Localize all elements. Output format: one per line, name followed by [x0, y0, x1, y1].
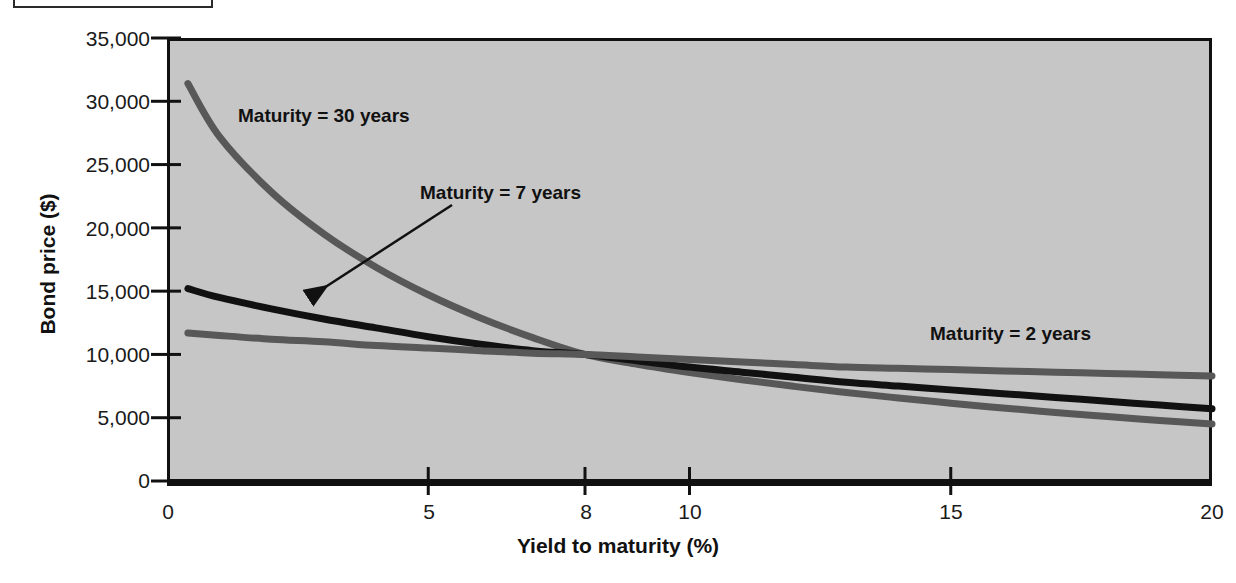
series-label-maturity-7-years: Maturity = 7 years [420, 182, 581, 204]
y-tick-label-15000: 15,000 [10, 280, 150, 304]
series-label-maturity-30-years: Maturity = 30 years [238, 105, 410, 127]
x-tick-label-15: 15 [921, 500, 981, 524]
y-tick-label-20000: 20,000 [10, 217, 150, 241]
x-axis-title: Yield to maturity (%) [0, 534, 1236, 558]
y-tick-label-5000: 5,000 [10, 406, 150, 430]
y-tick-label-0: 0 [10, 469, 150, 493]
x-tick-label-5: 5 [399, 500, 459, 524]
series-label-maturity-2-years: Maturity = 2 years [930, 323, 1091, 345]
y-tick-label-30000: 30,000 [10, 90, 150, 114]
bond-price-yield-chart: Bond price ($) 35,000 30,000 25,000 20,0… [0, 0, 1236, 583]
y-tick-label-35000: 35,000 [10, 27, 150, 51]
x-tick-label-8: 8 [556, 500, 616, 524]
y-tick-label-10000: 10,000 [10, 343, 150, 367]
x-tick-label-10: 10 [660, 500, 720, 524]
x-tick-label-20: 20 [1182, 500, 1236, 524]
y-tick-label-25000: 25,000 [10, 153, 150, 177]
y-axis-title: Bond price ($) [36, 154, 60, 374]
caption-box [13, 0, 213, 8]
x-tick-label-0: 0 [138, 500, 198, 524]
